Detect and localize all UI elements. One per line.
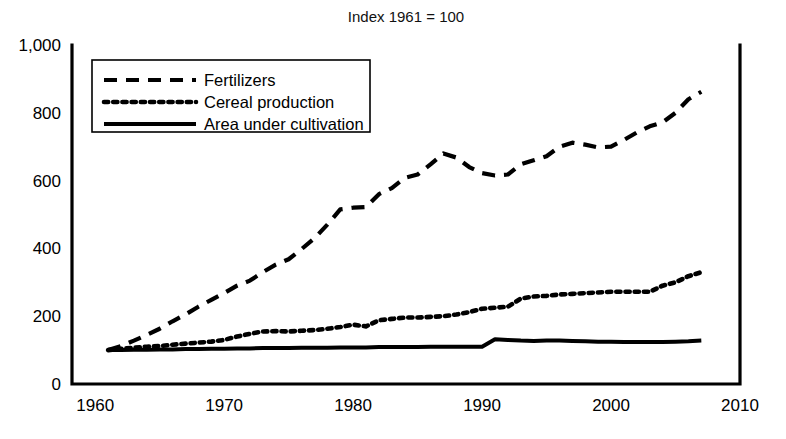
x-tick-label: 2000 [592,396,630,415]
legend-label: Fertilizers [204,71,276,89]
chart-title: Index 1961 = 100 [348,8,464,25]
y-tick-label: 600 [33,172,61,191]
chart-figure: Index 1961 = 100 02004006008001,000 1960… [0,0,786,439]
legend-label: Cereal production [204,93,334,111]
legend-label: Area under cultivation [204,115,364,133]
y-tick-label: 400 [33,239,61,258]
y-tick-label: 200 [33,307,61,326]
x-tick-label: 1990 [463,396,501,415]
x-tick-label: 1980 [334,396,372,415]
chart-legend: FertilizersCereal productionArea under c… [92,60,370,133]
y-tick-label: 0 [52,375,61,394]
y-tick-label: 800 [33,104,61,123]
x-tick-label: 1970 [205,396,243,415]
x-tick-label: 2010 [721,396,759,415]
x-tick-label: 1960 [76,396,114,415]
y-tick-label: 1,000 [18,36,61,55]
index-line-chart: Index 1961 = 100 02004006008001,000 1960… [0,0,786,439]
